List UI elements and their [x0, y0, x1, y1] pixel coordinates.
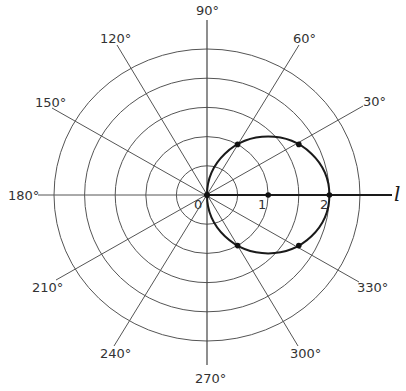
angle-label-30: 30°	[363, 94, 386, 109]
point-300	[235, 243, 241, 249]
polar-axis-label: l	[394, 182, 400, 206]
angle-label-270: 270°	[195, 371, 226, 386]
radial-label-1: 1	[258, 197, 266, 212]
ray-30-210	[56, 106, 363, 280]
angle-label-330: 330°	[357, 280, 388, 295]
angle-label-120: 120°	[100, 31, 131, 46]
angle-label-210: 210°	[32, 280, 63, 295]
radial-label-2: 2	[320, 197, 328, 212]
angle-label-60: 60°	[293, 31, 316, 46]
angle-label-180: 180°	[8, 188, 39, 203]
point-60	[235, 142, 241, 148]
angle-label-150: 150°	[35, 95, 66, 110]
polar-grid-rays	[38, 20, 363, 365]
angle-label-300: 300°	[290, 346, 321, 361]
radial-label-0: 0	[194, 197, 202, 212]
polar-diagram: 90° 60° 120° 30° 150° 180° 210° 330° 240…	[0, 0, 406, 391]
point-30	[296, 142, 302, 148]
radial-labels: 0 1 2	[194, 197, 328, 212]
angle-label-90: 90°	[196, 3, 219, 18]
point-origin	[204, 192, 210, 198]
angle-label-240: 240°	[100, 346, 131, 361]
point-330	[296, 243, 302, 249]
